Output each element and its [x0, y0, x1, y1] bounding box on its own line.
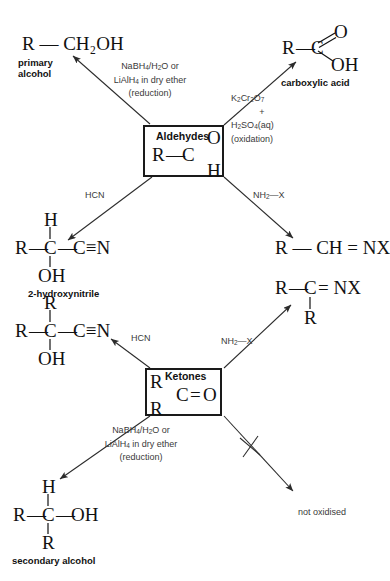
- reagent-oxidation-line2: +: [231, 106, 293, 120]
- primary-alcohol-caption-line2: alcohol: [18, 69, 53, 80]
- arrow-aldehyde-to-hydroxynitrile: [68, 177, 152, 240]
- reagent-oxidation-line3: H2SO4(aq): [231, 119, 327, 133]
- carboxylic-acid-r: R: [282, 38, 295, 57]
- imine-ketone-right-nx: = NX: [318, 278, 361, 297]
- reagent-reduction-aldehyde-line1: NaBH4/H2O or: [98, 60, 202, 74]
- imine-ketone-center-c: C: [304, 278, 317, 297]
- reagent-hcn-aldehyde: HCN: [85, 190, 105, 200]
- reagent-reduction-aldehyde-line3: (reduction): [98, 87, 202, 101]
- secondary-alcohol-top-h: H: [42, 477, 56, 496]
- imine-ketone-left-r: R: [275, 278, 288, 297]
- hydroxynitrile-ketone-center-c: C: [44, 321, 57, 340]
- hydroxynitrile-aldehyde-top-h: H: [44, 210, 58, 229]
- aldehydes-formula-c: C: [182, 145, 195, 164]
- no-reaction-cross-icon: [240, 436, 260, 457]
- reagent-reduction-ketone-line1: NaBH4/H2O or: [89, 424, 193, 438]
- aldehydes-formula-h: H: [207, 161, 221, 180]
- reagent-reduction-ketone-line2: LiAlH4 in dry ether: [89, 438, 193, 452]
- arrow-ketone-to-not-oxidised: [224, 416, 293, 491]
- reagent-oxidation-line1: K2Cr2O7: [231, 92, 327, 106]
- aldehydes-box-title: Aldehydes: [156, 130, 209, 142]
- hydroxynitrile-ketone-left-r: R: [15, 321, 28, 340]
- arrow-ketone-to-hydroxynitrile: [111, 339, 150, 368]
- hydroxynitrile-ketone-right-cn: C≡N: [73, 321, 110, 340]
- carboxylic-acid-c: C: [311, 38, 324, 57]
- hydroxynitrile-aldehyde-center-c: C: [44, 238, 57, 257]
- hydroxynitrile-ketone-top-r: R: [44, 293, 57, 312]
- carboxylic-acid-oh: OH: [331, 55, 358, 74]
- secondary-alcohol-left-r: R: [13, 505, 26, 524]
- reagent-oxidation-line4: (oxidation): [231, 133, 327, 147]
- reagent-oxidation-aldehyde: K2Cr2O7 + H2SO4(aq) (oxidation): [231, 92, 327, 146]
- reagent-nh2x-aldehyde: NH2—X: [253, 190, 285, 200]
- secondary-alcohol-bottom-r: R: [42, 533, 55, 552]
- hydroxynitrile-aldehyde-left-r: R: [15, 238, 28, 257]
- secondary-alcohol-caption: secondary alcohol: [12, 556, 95, 567]
- primary-alcohol-formula: R — CH₂OH: [22, 34, 124, 53]
- primary-alcohol-caption: primary alcohol: [18, 58, 53, 80]
- reagent-reduction-aldehyde: NaBH4/H2O or LiAlH4 in dry ether (reduct…: [98, 60, 202, 101]
- not-oxidised-label: not oxidised: [298, 507, 346, 517]
- secondary-alcohol-center-c: C: [42, 505, 55, 524]
- carboxylic-acid-o: O: [334, 22, 348, 41]
- ketones-formula-r-bottom: R: [150, 399, 163, 418]
- aldehydes-formula-o: O: [207, 128, 221, 147]
- arrow-aldehyde-to-imine: [224, 177, 293, 238]
- reagent-reduction-ketone-line3: (reduction): [89, 451, 193, 465]
- ketones-formula-double-bond: =: [190, 385, 201, 404]
- imine-aldehyde-formula: R — CH = NX: [275, 238, 390, 257]
- aldehydes-formula-r: R: [152, 145, 165, 164]
- hydroxynitrile-ketone-bottom-oh: OH: [38, 349, 65, 368]
- secondary-alcohol-right-oh: OH: [71, 505, 98, 524]
- ketones-formula-r-top: R: [150, 372, 163, 391]
- reagent-hcn-ketone: HCN: [131, 333, 151, 343]
- imine-ketone-bottom-r: R: [304, 308, 317, 327]
- hydroxynitrile-aldehyde-bottom-oh: OH: [38, 266, 65, 285]
- carboxylic-acid-caption: carboxylic acid: [281, 78, 350, 89]
- hydroxynitrile-caption: 2-hydroxynitrile: [28, 289, 99, 300]
- reagent-reduction-ketone: NaBH4/H2O or LiAlH4 in dry ether (reduct…: [89, 424, 193, 465]
- hydroxynitrile-aldehyde-right-cn: C≡N: [73, 238, 110, 257]
- reagent-reduction-aldehyde-line2: LiAlH4 in dry ether: [98, 74, 202, 88]
- ketones-formula-c: C: [176, 385, 189, 404]
- ketones-box-title: Ketones: [165, 370, 206, 382]
- ketones-formula-o: O: [203, 385, 217, 404]
- reagent-nh2x-ketone: NH2—X: [221, 336, 253, 346]
